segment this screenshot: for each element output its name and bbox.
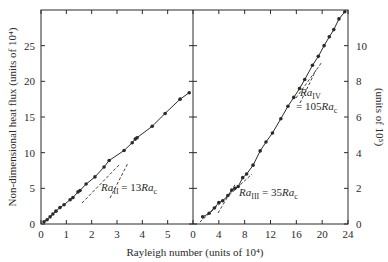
regime-annotation: = 105Rac <box>296 100 338 115</box>
data-point <box>322 44 326 48</box>
data-point <box>122 149 126 153</box>
y-axis-label-left: Non-dimensional heat flux (units of 10⁴) <box>6 27 19 206</box>
x-tick-label: 5 <box>165 228 171 240</box>
data-point <box>292 96 296 100</box>
x-tick-label: 0 <box>38 228 44 240</box>
data-point <box>221 199 225 203</box>
data-point <box>303 78 307 82</box>
data-point <box>58 206 62 210</box>
y-tick-label: 10 <box>356 40 368 52</box>
data-point <box>271 131 275 135</box>
y-tick-label: 25 <box>24 40 36 52</box>
data-point <box>78 189 82 193</box>
x-tick-label: 24 <box>343 228 355 240</box>
y-tick-label: 15 <box>24 111 36 123</box>
data-point <box>150 124 154 128</box>
data-point <box>45 218 49 222</box>
y-tick-label: 4 <box>356 147 362 159</box>
y-tick-label: 0 <box>356 218 362 230</box>
data-point <box>226 194 230 198</box>
data-point <box>51 212 55 216</box>
regime-annotation: RaIV <box>299 86 321 101</box>
data-point <box>187 91 191 95</box>
y-tick-label: 10 <box>24 147 36 159</box>
data-point <box>93 175 97 179</box>
data-point <box>343 10 347 14</box>
regime-annotation: RaII = 13Rac <box>100 181 158 196</box>
x-tick-label: 4 <box>140 228 146 240</box>
data-point <box>230 188 234 192</box>
data-point <box>337 17 341 21</box>
data-point <box>245 172 249 176</box>
data-point <box>279 117 283 121</box>
x-tick-label: 1 <box>64 228 70 240</box>
data-point <box>332 28 336 32</box>
data-point <box>316 55 320 59</box>
data-point <box>258 149 262 153</box>
y-tick-label: 0 <box>30 218 36 230</box>
data-point <box>327 35 331 39</box>
x-tick-label: 4 <box>216 228 222 240</box>
heat-flux-chart: 0123450510152025048121620240246810 RaII … <box>0 0 388 262</box>
data-point <box>48 215 52 219</box>
data-point <box>311 63 315 67</box>
y-axis-label-right: (units of 10⁵) <box>373 88 386 147</box>
data-point <box>251 163 255 167</box>
axis-ticks <box>41 10 348 224</box>
data-point <box>207 212 211 216</box>
data-point <box>107 159 111 163</box>
x-tick-label: 3 <box>114 228 120 240</box>
x-tick-label: 16 <box>291 228 303 240</box>
data-point <box>42 220 46 224</box>
data-point <box>233 187 237 191</box>
data-point <box>130 141 134 145</box>
x-tick-label: 2 <box>89 228 95 240</box>
data-point <box>54 209 58 213</box>
data-point <box>178 97 182 101</box>
data-point <box>217 201 221 205</box>
x-tick-label: 0 <box>190 228 196 240</box>
data-point <box>286 105 290 109</box>
regime-annotation: RaIII = 35Rac <box>238 186 298 201</box>
annotations: RaII = 13RacRaIII = 35RacRaIV= 105Rac <box>100 86 338 201</box>
x-tick-label: 12 <box>265 228 276 240</box>
x-axis-label: Rayleigh number (units of 10⁴) <box>126 246 263 259</box>
tick-labels: 0123450510152025048121620240246810 <box>24 40 368 240</box>
y-tick-label: 6 <box>356 111 362 123</box>
y-tick-label: 8 <box>356 75 362 87</box>
data-point <box>163 112 167 116</box>
x-tick-label: 20 <box>317 228 329 240</box>
data-point <box>213 206 217 210</box>
y-tick-label: 5 <box>30 182 36 194</box>
x-tick-label: 8 <box>242 228 248 240</box>
data-point <box>62 203 66 207</box>
data-point <box>84 182 88 186</box>
data-point <box>135 136 139 140</box>
data-point <box>71 196 75 200</box>
y-tick-label: 2 <box>356 182 362 194</box>
data-point <box>201 215 205 219</box>
data-point <box>102 165 106 169</box>
y-tick-label: 20 <box>24 75 36 87</box>
data-point <box>264 140 268 144</box>
data-point <box>241 176 245 180</box>
